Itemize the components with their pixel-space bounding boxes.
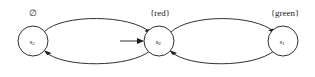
initial-state-arrowhead: [137, 38, 144, 44]
proposition-label-s0: {red}: [150, 8, 170, 18]
state-node-s2[interactable]: s2: [18, 26, 48, 56]
transition-s0-to-s1-path: [171, 19, 275, 33]
transition-s1-to-s0-path: [171, 51, 275, 64]
transition-s0-to-s2-arrowhead: [44, 50, 52, 55]
proposition-label-s1: {green}: [271, 8, 300, 18]
transition-s1-to-s0[interactable]: [170, 50, 275, 64]
transition-s0-to-s2-path: [45, 51, 150, 64]
diagram-canvas: s2 s0 s1 ∅ {red} {green}: [0, 0, 315, 77]
state-node-s1-subscript: 1: [282, 41, 285, 46]
state-node-s0[interactable]: s0: [144, 26, 174, 56]
transition-s0-to-s2[interactable]: [44, 50, 151, 64]
state-node-s1[interactable]: s1: [268, 26, 298, 56]
proposition-label-s2: ∅: [29, 8, 37, 18]
initial-state-arrow: [120, 38, 144, 44]
transition-s2-to-s0-path: [45, 18, 151, 32]
transition-s2-to-s0[interactable]: [45, 18, 152, 33]
state-transition-diagram: s2 s0 s1 ∅ {red} {green}: [0, 0, 315, 77]
transition-s0-to-s1[interactable]: [171, 19, 276, 34]
